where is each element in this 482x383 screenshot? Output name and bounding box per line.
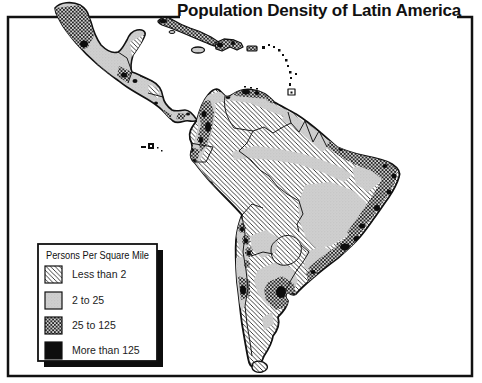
map-title: Population Density of Latin America	[177, 1, 462, 20]
legend-label: More than 125	[72, 344, 140, 356]
legend-label: 25 to 125	[72, 319, 116, 331]
legend-label: 2 to 25	[72, 294, 104, 306]
legend-swatch-gray-stipple	[45, 292, 62, 309]
legend-swatch-dark-halftone	[45, 317, 62, 334]
legend-title: Persons Per Square Mile	[46, 249, 149, 261]
jamaica	[192, 47, 205, 53]
tierra-del-fuego	[252, 361, 267, 372]
population-density-map: Population Density of Latin America Pers…	[0, 0, 482, 383]
title-block: Population Density of Latin America	[177, 1, 462, 20]
legend-swatch-solid-black	[45, 342, 62, 359]
legend-label: Less than 2	[72, 268, 126, 280]
legend-swatch-diagonal-hatch	[45, 266, 62, 283]
page: Population Density of Latin America Pers…	[0, 0, 482, 383]
legend: Persons Per Square Mile Less than 2 2 to…	[38, 244, 163, 367]
puerto-rico	[247, 46, 257, 51]
